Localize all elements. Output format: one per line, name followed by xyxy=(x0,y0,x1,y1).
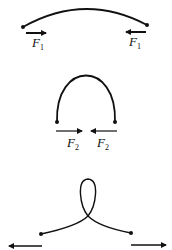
panel-shallow-arc: F1 F1 xyxy=(21,9,149,52)
loop-curve xyxy=(41,179,131,234)
endpoint-dot-left xyxy=(55,120,59,124)
force-label-f1-right: F1 xyxy=(128,34,141,51)
endpoint-dot-left xyxy=(21,25,25,29)
arc-curve xyxy=(23,9,147,27)
endpoint-dot-left xyxy=(39,232,43,236)
panel-loop xyxy=(9,179,166,246)
panel-tall-arch: F2 F2 xyxy=(55,76,117,153)
force-label-f1-left: F1 xyxy=(31,35,44,52)
force-label-f2-left: F2 xyxy=(66,135,79,152)
diagram-canvas: F1 F1 F2 F2 xyxy=(0,0,172,250)
endpoint-dot-right xyxy=(129,231,133,235)
endpoint-dot-right xyxy=(145,23,149,27)
force-diagram: F1 F1 F2 F2 xyxy=(0,0,172,250)
endpoint-dot-right xyxy=(113,120,117,124)
force-label-f2-right: F2 xyxy=(96,135,109,152)
arch-curve xyxy=(57,76,115,123)
